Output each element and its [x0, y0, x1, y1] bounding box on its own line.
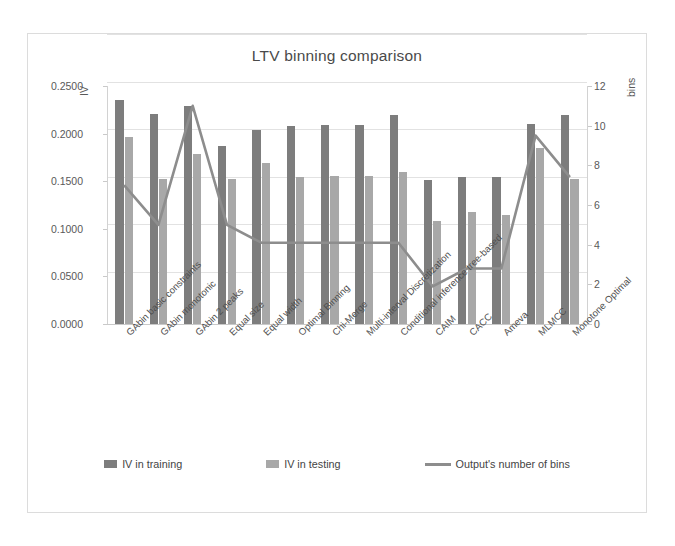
legend-line-swatch — [425, 463, 451, 466]
y-axis-right-tick-mark — [588, 86, 592, 87]
y-axis-right-tick-mark — [588, 126, 592, 127]
y-axis-right-tick-mark — [588, 165, 592, 166]
y-axis-left-tick-label: 0.0000 — [51, 318, 83, 330]
y-axis-right-tick-mark — [588, 205, 592, 206]
legend-item: Output's number of bins — [425, 458, 570, 470]
y-axis-left-tick-label: 0.1500 — [51, 175, 83, 187]
y-axis-left-tick-label: 0.2500 — [51, 80, 83, 92]
y-axis-right-tick-mark — [588, 284, 592, 285]
legend-item: IV in testing — [266, 458, 340, 470]
y-axis-right-tick-label: 2 — [594, 278, 600, 290]
legend-label: Output's number of bins — [456, 458, 570, 470]
y-axis-right-tick-label: 10 — [594, 120, 606, 132]
legend-bar-swatch — [104, 460, 117, 468]
gridline — [107, 82, 587, 83]
y-axis-left-tick-label: 0.1000 — [51, 223, 83, 235]
chart-frame: LTV binning comparison IV bins 0.25000.2… — [27, 33, 647, 513]
chart-legend: IV in trainingIV in testingOutput's numb… — [28, 458, 646, 470]
y-axis-left-tick-label: 0.2000 — [51, 128, 83, 140]
y-axis-right-tick-label: 12 — [594, 80, 606, 92]
legend-label: IV in testing — [284, 458, 340, 470]
y-axis-right-tick-mark — [588, 245, 592, 246]
gridline — [107, 34, 587, 35]
y-axis-right-tick-label: 4 — [594, 239, 600, 251]
y-axis-left-tick-label: 0.0500 — [51, 270, 83, 282]
legend-label: IV in training — [122, 458, 182, 470]
y-axis-right-line — [587, 86, 588, 325]
y-axis-right-tick-label: 8 — [594, 159, 600, 171]
y-axis-right-tick-label: 6 — [594, 199, 600, 211]
line-bins — [124, 106, 570, 286]
legend-bar-swatch — [266, 460, 279, 468]
legend-item: IV in training — [104, 458, 182, 470]
